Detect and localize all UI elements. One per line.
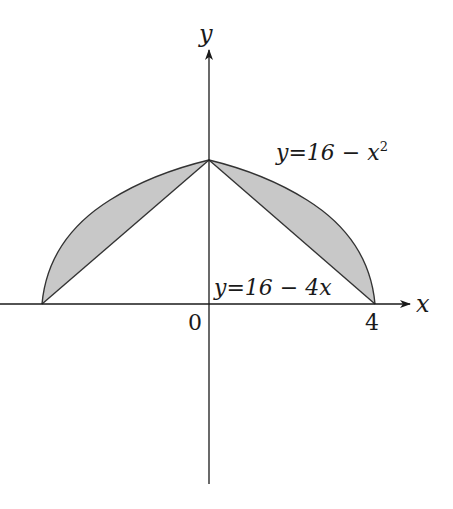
line-equation-label: y=16 − 4x bbox=[213, 275, 332, 300]
parabola-equation-label: y=16 − x2 bbox=[275, 139, 388, 165]
x-axis-label: x bbox=[416, 290, 430, 318]
origin-label: 0 bbox=[188, 310, 202, 335]
parabola-equation-exponent: 2 bbox=[380, 139, 388, 154]
parabola-equation-main: y=16 − x bbox=[275, 140, 380, 165]
line-segment-left bbox=[42, 160, 209, 304]
y-axis-label: y bbox=[198, 20, 213, 48]
x-tick-label-4: 4 bbox=[365, 310, 379, 335]
diagram: y x 0 4 y=16 − x2 y=16 − 4x bbox=[0, 0, 453, 509]
